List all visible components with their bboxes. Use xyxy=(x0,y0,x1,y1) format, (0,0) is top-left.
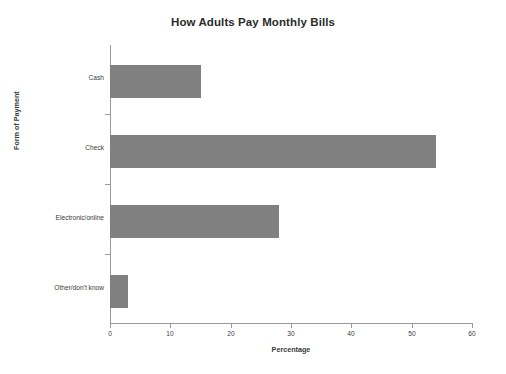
y-tick-label-row: Other/don't know xyxy=(0,284,110,292)
x-tick-label-50: 50 xyxy=(397,330,427,337)
bar-check xyxy=(110,135,436,168)
x-axis-tick xyxy=(231,324,232,328)
x-axis-tick xyxy=(110,324,111,328)
x-axis-tick xyxy=(472,324,473,328)
y-tick-label-other-dont-know: Other/don't know xyxy=(4,284,110,292)
x-axis-title: Percentage xyxy=(110,345,472,354)
x-axis-tick xyxy=(412,324,413,328)
y-axis-title: Form of Payment xyxy=(12,91,21,150)
plot-area xyxy=(110,45,472,323)
bar-chart: How Adults Pay Monthly Bills Cash Check … xyxy=(0,0,506,374)
x-tick-label-60: 60 xyxy=(457,330,487,337)
x-tick-label-20: 20 xyxy=(216,330,246,337)
bar-electronic-online xyxy=(110,205,279,238)
x-tick-label-40: 40 xyxy=(336,330,366,337)
y-tick-label-electronic-online: Electronic/online xyxy=(4,214,110,222)
x-axis-tick xyxy=(291,324,292,328)
y-tick-label-row: Cash xyxy=(0,74,110,82)
y-tick-label-cash: Cash xyxy=(4,74,110,82)
y-tick-label-row: Electronic/online xyxy=(0,214,110,222)
bar-other-dont-know xyxy=(110,275,128,308)
x-tick-label-10: 10 xyxy=(155,330,185,337)
x-tick-label-0: 0 xyxy=(95,330,125,337)
chart-title: How Adults Pay Monthly Bills xyxy=(0,16,506,28)
x-tick-label-30: 30 xyxy=(276,330,306,337)
x-axis-tick xyxy=(170,324,171,328)
bar-cash xyxy=(110,65,201,98)
x-axis-tick xyxy=(351,324,352,328)
